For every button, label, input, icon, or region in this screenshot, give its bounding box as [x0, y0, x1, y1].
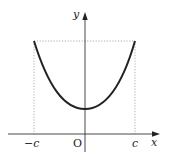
guide-lines	[34, 41, 135, 134]
origin-label: O	[73, 137, 82, 150]
y-axis-arrow-icon	[82, 12, 87, 20]
x-axis-label: x	[151, 136, 158, 149]
diagram-canvas: y x O −c c	[0, 0, 172, 161]
curve	[34, 41, 135, 109]
tick-label-c: c	[132, 137, 138, 150]
tick-label-neg-c: −c	[24, 137, 39, 150]
y-axis-label: y	[72, 8, 80, 21]
